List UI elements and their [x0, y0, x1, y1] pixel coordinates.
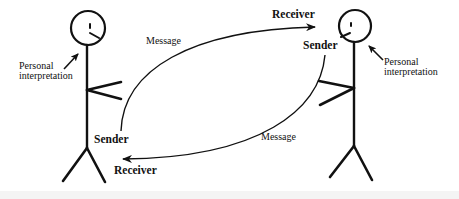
- right-interpretation-label: Personal interpretation: [384, 57, 438, 77]
- message-label-bottom: Message: [261, 132, 296, 142]
- left-sender-label: Sender: [94, 134, 129, 146]
- right-person-figure: [319, 10, 372, 180]
- right-person-leg-right: [354, 146, 372, 180]
- left-interpretation-line2: interpretation: [19, 71, 73, 81]
- diagram-canvas: [0, 0, 459, 199]
- right-interpretation-line2: interpretation: [384, 67, 438, 77]
- left-receiver-label: Receiver: [114, 165, 157, 177]
- right-sender-label: Sender: [303, 40, 338, 52]
- left-person-leg-right: [87, 148, 105, 182]
- right-person-leg-left: [330, 146, 354, 177]
- right-receiver-label: Receiver: [272, 9, 315, 21]
- left-person-figure: [63, 11, 121, 182]
- left-interpretation-label: Personal interpretation: [19, 61, 73, 81]
- left-person-arm-upper: [87, 82, 121, 90]
- message-label-top: Message: [146, 36, 181, 46]
- message-arrow-right-to-left: [123, 55, 325, 159]
- left-person-head: [71, 11, 105, 45]
- right-person-head: [339, 10, 371, 42]
- right-person-arm-upper: [319, 81, 354, 88]
- right-person-arm-lower: [320, 88, 354, 105]
- right-interpretation-arrow: [369, 46, 383, 60]
- left-person-leg-left: [63, 148, 87, 181]
- communication-diagram: Personal interpretation Sender Receiver …: [0, 0, 459, 199]
- left-person-mouth: [90, 33, 99, 38]
- left-person-arm-lower: [87, 90, 121, 99]
